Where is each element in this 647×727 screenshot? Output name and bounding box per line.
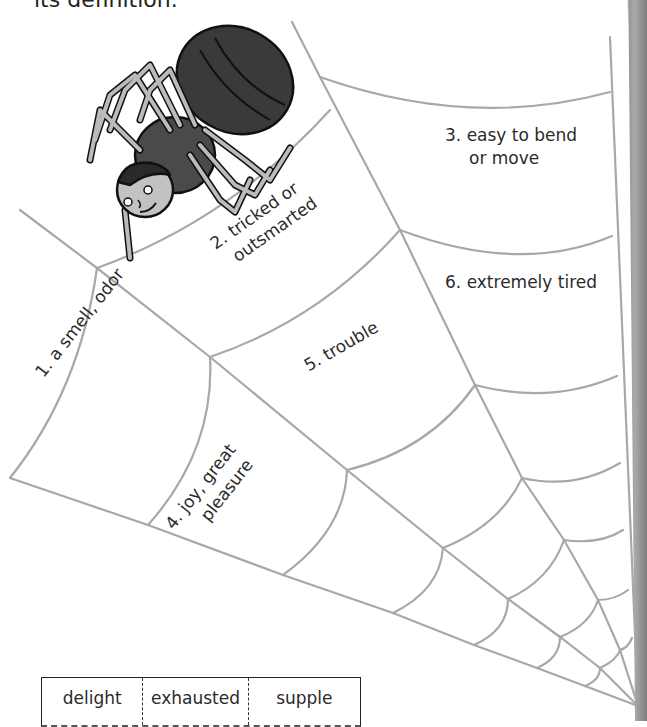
word-bank-item: delight xyxy=(42,678,142,725)
clue-3-text-line2: or move xyxy=(445,147,577,170)
word-bank-item: exhausted xyxy=(142,678,247,725)
clue-3-number: 3. xyxy=(445,125,461,145)
web-radial xyxy=(10,478,638,706)
clue-3-text: easy to bend xyxy=(467,125,577,145)
clue-6: 6. extremely tired xyxy=(445,271,597,294)
clue-6-number: 6. xyxy=(445,272,461,292)
word-bank: delight exhausted supple xyxy=(41,677,361,727)
word-bank-item: supple xyxy=(248,678,360,725)
clue-6-text: extremely tired xyxy=(467,272,597,292)
clue-3: 3. easy to bend or move xyxy=(445,124,577,170)
